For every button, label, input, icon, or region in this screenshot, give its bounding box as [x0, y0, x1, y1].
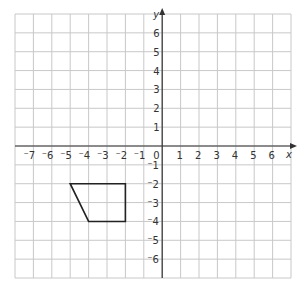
- x-tick-label: 1: [177, 150, 183, 161]
- y-tick-label: ⁻5: [147, 235, 159, 246]
- x-tick-label: ⁻5: [60, 150, 72, 161]
- x-tick-label: ⁻2: [115, 150, 127, 161]
- coordinate-grid: ⁻7⁻6⁻5⁻4⁻3⁻2⁻1123456654321⁻1⁻2⁻3⁻4⁻5⁻60x…: [0, 0, 306, 291]
- x-tick-label: ⁻7: [23, 150, 35, 161]
- y-tick-label: 5: [153, 47, 159, 58]
- y-tick-label: ⁻4: [147, 216, 159, 227]
- y-arrow-icon: [159, 8, 165, 15]
- y-tick-label: 6: [153, 28, 159, 39]
- y-tick-label: ⁻2: [147, 179, 159, 190]
- y-tick-label: 4: [153, 66, 159, 77]
- x-tick-label: ⁻4: [79, 150, 91, 161]
- x-axis-label: x: [285, 149, 292, 160]
- y-tick-label: ⁻1: [147, 160, 159, 171]
- y-tick-label: ⁻3: [147, 198, 159, 209]
- x-tick-label: 5: [250, 150, 256, 161]
- x-tick-label: 2: [195, 150, 201, 161]
- y-axis-label: y: [152, 9, 160, 20]
- x-tick-label: ⁻3: [97, 150, 109, 161]
- x-tick-label: 4: [232, 150, 238, 161]
- origin-label: 0: [153, 150, 159, 161]
- x-tick-label: 6: [269, 150, 275, 161]
- x-tick-label: ⁻1: [134, 150, 146, 161]
- y-tick-label: 3: [153, 84, 159, 95]
- y-tick-label: ⁻6: [147, 254, 159, 265]
- y-tick-label: 1: [153, 122, 159, 133]
- x-tick-label: 3: [213, 150, 219, 161]
- y-tick-label: 2: [153, 103, 159, 114]
- x-tick-label: ⁻6: [42, 150, 54, 161]
